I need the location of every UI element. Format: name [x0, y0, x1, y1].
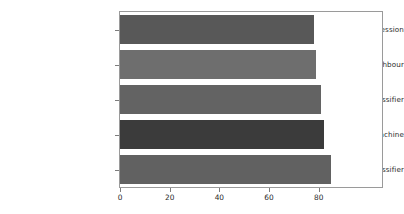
x-axis-tick [269, 188, 270, 192]
x-axis-tick [120, 188, 121, 192]
x-axis-tick [219, 188, 220, 192]
x-axis-tick-label-60: 60 [264, 194, 273, 201]
bar-support-vector-machine [120, 120, 324, 149]
x-axis-tick [319, 188, 320, 192]
x-axis-tick [170, 188, 171, 192]
bar-row [120, 85, 382, 114]
bar-random-forest-classifier [120, 155, 331, 184]
x-axis-tick-label-40: 40 [215, 194, 224, 201]
bar-row [120, 155, 382, 184]
bar-row [120, 15, 382, 44]
x-axis-tick-label-20: 20 [165, 194, 174, 201]
bar-row [120, 120, 382, 149]
bar-chart-figure: Logistic RegressionK Nearest NeighbourDe… [0, 0, 404, 214]
x-axis-tick-label-0: 0 [118, 194, 123, 201]
x-axis-tick-label-80: 80 [314, 194, 323, 201]
bar-row [120, 50, 382, 79]
bar-decision-tree-classifier [120, 85, 321, 114]
bar-logistic-regression [120, 15, 314, 44]
plot-area [119, 11, 383, 188]
bar-k-nearest-neighbour [120, 50, 316, 79]
